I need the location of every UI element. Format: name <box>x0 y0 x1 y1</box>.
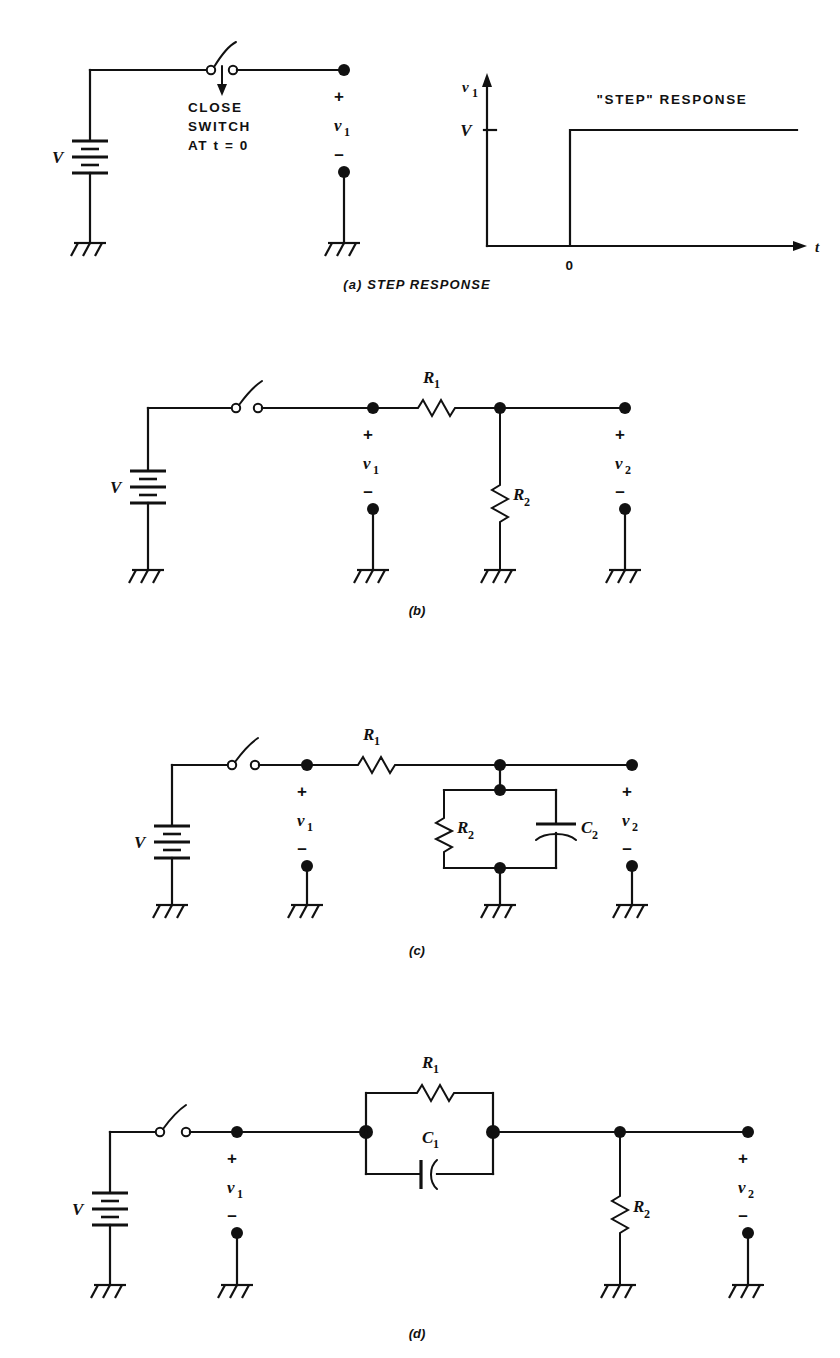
switch-label: SWITCH <box>188 119 251 134</box>
close-label: CLOSE <box>188 100 243 115</box>
resistor-r2-sub-b: 2 <box>524 495 530 509</box>
port-node-v2-top-b <box>619 402 631 414</box>
chart-ytick-label-V: V <box>460 121 473 140</box>
resistor-r2-label-b: R <box>512 485 524 504</box>
circuit-figure: V + v 1 – <box>0 0 840 1358</box>
port-label-v2-sub-c: 2 <box>632 820 638 834</box>
port-label-v1-sub-a: 1 <box>344 125 350 139</box>
port-node-v2-top-c <box>626 759 638 771</box>
resistor-r2-label-c: R <box>456 818 468 837</box>
port-label-v1-b: v <box>363 454 371 473</box>
port-label-v1-a: v <box>334 116 342 135</box>
chart-ylabel-sub: 1 <box>472 86 478 100</box>
resistor-r2-label-d: R <box>632 1197 644 1216</box>
port-label-v2-c: v <box>622 811 630 830</box>
port-plus-v2-d: + <box>738 1149 748 1168</box>
port-plus-v2-c: + <box>622 782 632 801</box>
battery-label-a: V <box>52 148 65 167</box>
port-plus-v2-b: + <box>615 425 625 444</box>
caption-d: (d) <box>409 1326 426 1341</box>
resistor-r1-label-c: R <box>362 725 374 744</box>
port-node-v1-top-a <box>338 64 350 76</box>
port-minus-v2-d: – <box>738 1206 747 1225</box>
chart-title: "STEP" RESPONSE <box>597 92 748 107</box>
port-label-v2-b: v <box>615 454 623 473</box>
port-plus-v1-d: + <box>227 1149 237 1168</box>
port-plus-v1-a: + <box>334 87 344 106</box>
caption-b: (b) <box>409 603 426 618</box>
port-label-v1-c: v <box>297 811 305 830</box>
capacitor-c1-sub-d: 1 <box>433 1137 439 1151</box>
resistor-r1-label-b: R <box>422 368 434 387</box>
chart-xtick-label-0: 0 <box>565 258 574 273</box>
port-node-v2-top-d <box>742 1126 754 1138</box>
port-minus-v2-b: – <box>615 482 624 501</box>
port-label-v1-sub-b: 1 <box>373 463 379 477</box>
port-plus-v1-b: + <box>363 425 373 444</box>
resistor-r1-label-d: R <box>421 1053 433 1072</box>
port-label-v2-d: v <box>738 1178 746 1197</box>
resistor-r2-sub-c: 2 <box>468 828 474 842</box>
battery-label-d: V <box>72 1200 85 1219</box>
port-label-v2-sub-b: 2 <box>625 463 631 477</box>
at-t-zero-label: AT t = 0 <box>188 138 249 153</box>
resistor-r1-sub-d: 1 <box>433 1062 439 1076</box>
resistor-r1-sub-c: 1 <box>374 734 380 748</box>
chart-ylabel: v <box>462 79 469 95</box>
battery-label-c: V <box>134 833 147 852</box>
caption-c: (c) <box>409 943 425 958</box>
figure-background <box>0 0 840 1358</box>
port-minus-v2-c: – <box>622 839 631 858</box>
port-minus-v1-a: – <box>334 145 343 164</box>
port-minus-v1-d: – <box>227 1206 236 1225</box>
resistor-r2-sub-d: 2 <box>644 1207 650 1221</box>
resistor-r1-sub-b: 1 <box>434 377 440 391</box>
port-minus-v1-b: – <box>363 482 372 501</box>
port-label-v1-sub-d: 1 <box>237 1187 243 1201</box>
capacitor-c2-sub-c: 2 <box>592 828 598 842</box>
caption-a: (a) STEP RESPONSE <box>343 277 491 292</box>
port-label-v1-d: v <box>227 1178 235 1197</box>
port-minus-v1-c: – <box>297 839 306 858</box>
port-label-v2-sub-d: 2 <box>748 1187 754 1201</box>
port-plus-v1-c: + <box>297 782 307 801</box>
port-label-v1-sub-c: 1 <box>307 820 313 834</box>
battery-label-b: V <box>110 478 123 497</box>
